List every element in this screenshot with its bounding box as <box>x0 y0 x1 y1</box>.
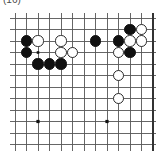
black-stone[interactable] <box>90 35 101 46</box>
black-stone[interactable] <box>124 24 135 35</box>
white-stone[interactable] <box>55 35 66 46</box>
go-board-stones <box>10 13 156 161</box>
white-stone[interactable] <box>32 35 43 46</box>
white-stone[interactable] <box>55 47 66 58</box>
white-stone[interactable] <box>124 35 135 46</box>
white-stone[interactable] <box>67 47 78 58</box>
black-stone[interactable] <box>21 35 32 46</box>
black-stone[interactable] <box>32 58 43 69</box>
go-diagram-root: (16) <box>0 0 161 165</box>
go-board[interactable] <box>10 13 156 161</box>
black-stone[interactable] <box>21 47 32 58</box>
white-stone[interactable] <box>136 35 147 46</box>
white-stone[interactable] <box>113 47 124 58</box>
white-stone[interactable] <box>136 24 147 35</box>
black-stone[interactable] <box>55 58 66 69</box>
white-stone[interactable] <box>113 70 124 81</box>
black-stone[interactable] <box>44 58 55 69</box>
figure-caption: (16) <box>3 0 21 5</box>
white-stone[interactable] <box>113 93 124 104</box>
black-stone[interactable] <box>124 47 135 58</box>
black-stone[interactable] <box>113 35 124 46</box>
